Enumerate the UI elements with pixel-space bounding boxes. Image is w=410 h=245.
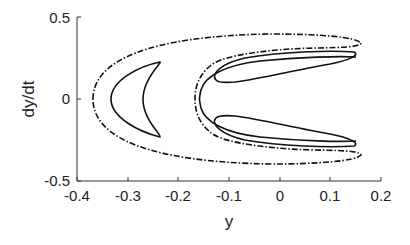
left-crescent-orbit <box>111 62 160 137</box>
x-tick-labels: -0.4 -0.3 -0.2 -0.1 0 0.1 0.2 <box>64 187 391 204</box>
x-tick-label: -0.1 <box>216 187 242 204</box>
y-tick-labels: 0.5 0 -0.5 <box>44 9 70 189</box>
phase-plane-chart: 0.5 0 -0.5 -0.4 -0.3 -0.2 -0.1 0 0.1 0.2… <box>0 0 410 245</box>
plot-area <box>93 34 361 164</box>
x-tick-label: 0.2 <box>371 187 392 204</box>
x-axis-label: y <box>225 212 234 231</box>
y-tick-label: 0 <box>62 90 70 107</box>
x-tick-label: -0.4 <box>64 187 90 204</box>
x-tick-label: 0.1 <box>320 187 341 204</box>
x-tick-label: -0.2 <box>165 187 191 204</box>
outer-separatrix-curve <box>93 34 361 164</box>
x-tick-label: -0.3 <box>115 187 141 204</box>
y-tick-label: 0.5 <box>49 9 70 26</box>
c-shaped-orbit <box>200 57 357 142</box>
x-tick-label: 0 <box>276 187 284 204</box>
axes <box>77 17 381 181</box>
y-axis-label: dy/dt <box>19 80 38 117</box>
